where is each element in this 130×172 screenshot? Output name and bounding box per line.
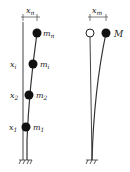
undeformed-axis-right [90, 37, 92, 160]
disp-label-1: x1 [9, 123, 17, 133]
right-figure-single-mass: xm M [86, 6, 124, 164]
ground-support-right [86, 160, 98, 164]
mdof-vs-sdof-diagram: xn mn mi xi m2 x2 m1 x1 xm M [0, 0, 130, 172]
mass-label-n: mn [43, 29, 55, 39]
mass-n [33, 29, 42, 38]
left-figure-multi-mass: xn mn mi xi m2 x2 m1 x1 [9, 6, 55, 164]
dim-label-xn: xn [26, 6, 35, 16]
mass-1 [22, 123, 31, 132]
mass-label-2: m2 [36, 91, 48, 101]
dim-label-xm: xm [92, 6, 103, 16]
disp-label-i: xi [10, 60, 17, 70]
mass-label-i: mi [40, 60, 50, 70]
mass-original-position [86, 29, 94, 37]
mass-label-M: M [113, 29, 124, 39]
deflected-shape-right [92, 33, 106, 160]
mass-i [29, 60, 38, 69]
ground-support-left [19, 160, 32, 164]
mass-label-1: m1 [33, 123, 44, 133]
disp-label-2: x2 [10, 91, 19, 101]
mass-2 [25, 91, 34, 100]
mass-M [102, 29, 111, 38]
